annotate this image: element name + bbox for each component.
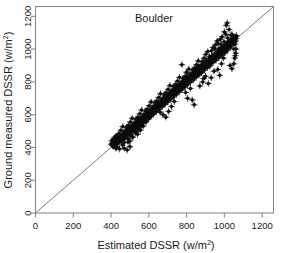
data-point bbox=[218, 61, 225, 68]
y-axis-title-tail: ) bbox=[2, 32, 14, 36]
data-point bbox=[184, 95, 191, 102]
x-tick-label: 1200 bbox=[252, 220, 273, 231]
scatter-plot-figure: 020040060080010001200 020040060080010001… bbox=[0, 0, 285, 253]
y-tick-label: 1000 bbox=[22, 39, 33, 60]
y-tick-label: 600 bbox=[22, 107, 33, 123]
data-point bbox=[189, 97, 196, 104]
x-tick-label: 0 bbox=[33, 220, 38, 231]
y-tick-label: 400 bbox=[22, 140, 33, 156]
x-tick-label: 800 bbox=[179, 220, 195, 231]
y-axis-tick-labels: 020040060080010001200 bbox=[22, 6, 33, 216]
chart-canvas: 020040060080010001200 020040060080010001… bbox=[0, 0, 285, 253]
y-tick-label: 0 bbox=[22, 210, 33, 215]
data-point bbox=[205, 80, 212, 87]
x-axis-title-main: Estimated DSSR (w/m bbox=[98, 239, 207, 251]
x-tick-label: 600 bbox=[141, 220, 157, 231]
x-axis-tick-labels: 020040060080010001200 bbox=[33, 220, 273, 231]
y-tick-label: 200 bbox=[22, 172, 33, 188]
data-point bbox=[179, 61, 186, 68]
x-tick-label: 1000 bbox=[214, 220, 235, 231]
y-axis-title-main: Ground measured DSSR (w/m bbox=[2, 39, 14, 188]
panel-title: Boulder bbox=[135, 12, 173, 24]
x-tick-label: 400 bbox=[103, 220, 119, 231]
data-point bbox=[197, 83, 204, 90]
y-tick-label: 1200 bbox=[22, 6, 33, 27]
data-point bbox=[168, 103, 175, 110]
x-axis-title: Estimated DSSR (w/m2) bbox=[98, 239, 215, 251]
x-axis-tickmarks bbox=[36, 213, 263, 218]
data-point bbox=[165, 108, 172, 115]
x-tick-label: 200 bbox=[65, 220, 81, 231]
x-axis-title-tail: ) bbox=[211, 239, 215, 251]
data-point bbox=[191, 102, 198, 109]
y-axis-title: Ground measured DSSR (w/m2) bbox=[2, 32, 14, 189]
data-point bbox=[216, 72, 223, 79]
data-point-cloud bbox=[108, 20, 240, 154]
y-tick-label: 800 bbox=[22, 74, 33, 90]
data-point bbox=[208, 74, 215, 81]
